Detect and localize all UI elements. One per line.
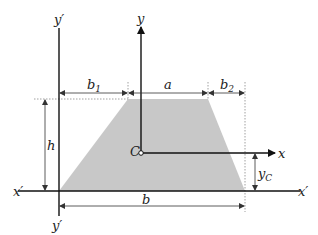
label-x-prime-left: x′: [13, 184, 23, 199]
label-b: b: [142, 192, 150, 207]
trapezoid-diagram: y′ y′ y x x′ x′ b1 a b2 h C yC b: [0, 0, 318, 235]
label-x-prime-right: x′: [298, 184, 308, 199]
label-y-prime-bottom: y′: [51, 218, 62, 233]
label-y-prime-top: y′: [53, 12, 64, 27]
label-yC: yC: [257, 166, 272, 183]
label-b1: b1: [87, 77, 101, 94]
trapezoid-area: [59, 99, 245, 191]
label-h: h: [47, 138, 55, 153]
label-b2: b2: [220, 77, 234, 94]
label-a: a: [164, 77, 172, 92]
label-C: C: [130, 144, 140, 159]
label-x: x: [278, 146, 286, 161]
label-y: y: [136, 11, 145, 26]
